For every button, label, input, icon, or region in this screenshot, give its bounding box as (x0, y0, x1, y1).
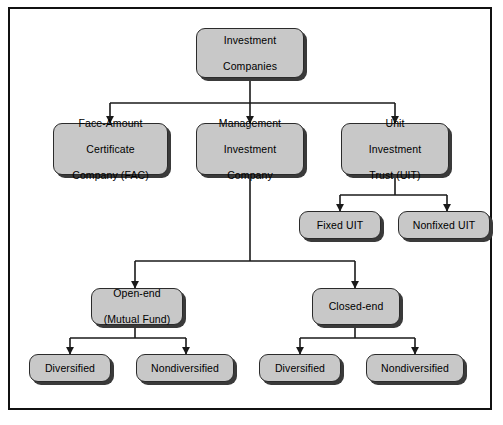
node-open-end-diversified-text: Diversified (34, 362, 106, 375)
node-fixed-uit[interactable]: Fixed UIT (299, 211, 381, 239)
investment-companies-diagram: InvestmentCompanies Face-AmountCertifica… (0, 0, 503, 425)
node-nonfixed-uit[interactable]: Nonfixed UIT (398, 211, 490, 239)
node-open-end-nondiversified-text: Nondiversified (141, 362, 229, 375)
node-investment-companies-text: InvestmentCompanies (201, 34, 299, 73)
node-face-amount-text: Face-AmountCertificateCompany (FAC) (58, 117, 163, 182)
node-closed-end-nondiversified[interactable]: Nondiversified (366, 354, 464, 382)
node-nonfixed-uit-text: Nonfixed UIT (403, 219, 485, 232)
node-management-text: ManagementInvestmentCompany (201, 117, 299, 182)
node-face-amount-certificate-company[interactable]: Face-AmountCertificateCompany (FAC) (53, 123, 168, 175)
node-closed-end[interactable]: Closed-end (312, 288, 400, 325)
node-unit-investment-trust[interactable]: UnitInvestmentTrust (UIT) (341, 123, 449, 175)
node-open-end-mutual-fund[interactable]: Open-end(Mutual Fund) (91, 288, 183, 325)
node-fixed-uit-text: Fixed UIT (304, 219, 376, 232)
node-open-end-nondiversified[interactable]: Nondiversified (136, 354, 234, 382)
node-open-end-text: Open-end(Mutual Fund) (96, 287, 178, 326)
node-closed-end-diversified-text: Diversified (264, 362, 336, 375)
node-uit-text: UnitInvestmentTrust (UIT) (346, 117, 444, 182)
node-closed-end-text: Closed-end (317, 300, 395, 313)
node-investment-companies[interactable]: InvestmentCompanies (196, 28, 304, 78)
node-closed-end-nondiversified-text: Nondiversified (371, 362, 459, 375)
node-open-end-diversified[interactable]: Diversified (29, 354, 111, 382)
node-closed-end-diversified[interactable]: Diversified (259, 354, 341, 382)
node-management-investment-company[interactable]: ManagementInvestmentCompany (196, 123, 304, 175)
